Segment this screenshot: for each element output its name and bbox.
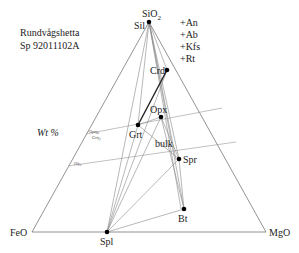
phase-label-bt: Bt <box>178 213 188 224</box>
wt-percent-label: Wt % <box>37 127 59 138</box>
extra-phase-kfs: +Kfs <box>180 41 200 52</box>
tie-spl-crd <box>107 70 167 232</box>
title-locality: Rundvågshetta <box>20 27 80 38</box>
phase-label-crd: Crd <box>150 65 165 76</box>
title-sample: Sp 92011102A <box>20 40 80 51</box>
phase-label-spr: Spr <box>183 154 198 165</box>
phase-label-spl: Spl <box>100 236 114 247</box>
phase-point-crd <box>165 68 170 73</box>
tie-sil-spl <box>107 22 149 232</box>
wt-line-ol <box>68 142 236 166</box>
isopleth-label-ol: OlFo <box>74 161 82 167</box>
vertex-label-mgo: MgO <box>269 227 290 238</box>
tie-sil-grt <box>138 22 149 125</box>
ternary-triangle <box>32 22 266 232</box>
isopleth-label-grt: GrtPy <box>92 135 101 141</box>
phase-label-opx: Opx <box>150 104 167 115</box>
phase-point-spl <box>105 230 110 235</box>
extra-phase-ab: +Ab <box>180 29 198 40</box>
phase-point-bt <box>182 207 187 212</box>
phase-point-opx <box>159 115 164 120</box>
bulk-label: bulk <box>155 138 173 149</box>
vertex-label-feo: FeO <box>10 227 27 238</box>
extra-phase-rt: +Rt <box>180 53 195 64</box>
tie-opx-bt <box>161 117 184 209</box>
phase-point-sil <box>147 20 152 25</box>
phase-point-spr <box>177 157 182 162</box>
ternary-diagram: Rundvågshetta Sp 92011102A +An +Ab +Kfs … <box>0 0 299 253</box>
phase-label-grt: Grt <box>129 129 143 140</box>
phase-point-grt <box>136 123 141 128</box>
phase-label-sil: Sil <box>134 20 145 31</box>
extra-phase-an: +An <box>180 17 198 28</box>
